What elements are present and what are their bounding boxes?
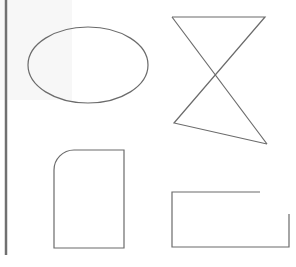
hourglass-cross-line xyxy=(172,17,267,144)
open-rect-shape xyxy=(172,192,289,247)
diagram-canvas xyxy=(0,0,296,267)
rounded-rect-shape xyxy=(54,150,124,248)
ellipse-shape xyxy=(28,27,148,103)
